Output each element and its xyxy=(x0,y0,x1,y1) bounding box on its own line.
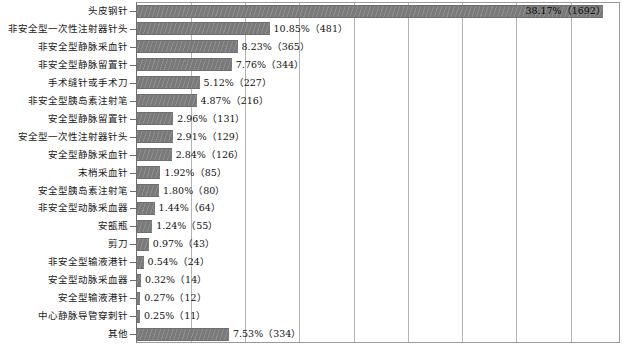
bar-row: 安全型输液港针0.27%（12） xyxy=(0,289,630,307)
data-label: 2.96%（131） xyxy=(177,110,245,128)
bar xyxy=(137,220,152,233)
bar-row: 非安全型输液港针0.54%（24） xyxy=(0,253,630,271)
bar xyxy=(137,58,232,71)
data-label: 8.23%（365） xyxy=(242,38,310,56)
bar-row: 非安全型动脉采血器1.44%（64） xyxy=(0,199,630,217)
axis-tick xyxy=(130,208,136,209)
axis-tick xyxy=(130,191,136,192)
bar xyxy=(137,328,229,341)
data-label: 7.53%（334） xyxy=(233,325,301,343)
bar xyxy=(137,256,144,269)
axis-tick xyxy=(130,244,136,245)
category-label: 非安全型一次性注射器针头 xyxy=(0,20,128,38)
axis-tick xyxy=(130,137,136,138)
bar xyxy=(137,184,159,197)
category-label: 剪刀 xyxy=(0,235,128,253)
bar-row: 剪刀0.97%（43） xyxy=(0,235,630,253)
category-label: 安瓿瓶 xyxy=(0,217,128,235)
category-label: 非安全型胰岛素注射笔 xyxy=(0,92,128,110)
data-label: 0.25%（11） xyxy=(144,307,206,325)
axis-tick xyxy=(130,47,136,48)
bar xyxy=(137,130,173,143)
bar-row: 安瓿瓶1.24%（55） xyxy=(0,217,630,235)
bar-chart: 头皮钢针38.17%（1692）非安全型一次性注射器针头10.85%（481）非… xyxy=(0,0,630,354)
axis-tick xyxy=(130,29,136,30)
data-label: 1.80%（80） xyxy=(163,182,225,200)
axis-tick xyxy=(130,334,136,335)
data-label: 2.91%（129） xyxy=(177,128,245,146)
bar xyxy=(137,274,141,287)
category-label: 其他 xyxy=(0,325,128,343)
bar xyxy=(137,22,270,35)
category-label: 安全型输液港针 xyxy=(0,289,128,307)
category-label: 安全型一次性注射器针头 xyxy=(0,128,128,146)
bar-row: 中心静脉导管穿刺针0.25%（11） xyxy=(0,307,630,325)
axis-tick xyxy=(130,11,136,12)
category-label: 末梢采血针 xyxy=(0,164,128,182)
data-label: 0.54%（24） xyxy=(148,253,210,271)
category-label: 安全型胰岛素注射笔 xyxy=(0,182,128,200)
category-label: 非安全型输液港针 xyxy=(0,253,128,271)
bar-row: 非安全型胰岛素注射笔4.87%（216） xyxy=(0,92,630,110)
bar-row: 非安全型一次性注射器针头10.85%（481） xyxy=(0,20,630,38)
data-label: 0.97%（43） xyxy=(153,235,215,253)
data-label: 7.76%（344） xyxy=(236,56,304,74)
axis-tick xyxy=(130,65,136,66)
bar-row: 其他7.53%（334） xyxy=(0,325,630,343)
data-label: 1.24%（55） xyxy=(156,217,218,235)
data-label: 1.92%（85） xyxy=(164,164,226,182)
data-label: 1.44%（64） xyxy=(159,199,221,217)
category-label: 安全型静脉采血针 xyxy=(0,146,128,164)
bar xyxy=(137,148,172,161)
category-label: 手术缝针或手术刀 xyxy=(0,74,128,92)
bar xyxy=(137,310,140,323)
bar-row: 非安全型静脉留置针7.76%（344） xyxy=(0,56,630,74)
axis-tick xyxy=(130,83,136,84)
axis-tick xyxy=(130,101,136,102)
category-label: 非安全型静脉留置针 xyxy=(0,56,128,74)
bar-row: 末梢采血针1.92%（85） xyxy=(0,164,630,182)
axis-tick xyxy=(130,316,136,317)
data-label: 38.17%（1692） xyxy=(525,2,605,20)
bar xyxy=(137,166,160,179)
bar-row: 安全型一次性注射器针头2.91%（129） xyxy=(0,128,630,146)
bar-row: 非安全型静脉采血针8.23%（365） xyxy=(0,38,630,56)
category-label: 头皮钢针 xyxy=(0,2,128,20)
bar xyxy=(137,202,155,215)
category-label: 安全型静脉留置针 xyxy=(0,110,128,128)
bar xyxy=(137,238,149,251)
bar xyxy=(137,76,200,89)
data-label: 10.85%（481） xyxy=(274,20,348,38)
category-label: 非安全型动脉采血器 xyxy=(0,199,128,217)
category-label: 安全型动脉采血器 xyxy=(0,271,128,289)
axis-tick xyxy=(130,298,136,299)
category-label: 中心静脉导管穿刺针 xyxy=(0,307,128,325)
bar xyxy=(137,292,140,305)
data-label: 0.32%（14） xyxy=(145,271,207,289)
bar-rows: 头皮钢针38.17%（1692）非安全型一次性注射器针头10.85%（481）非… xyxy=(0,2,630,343)
data-label: 5.12%（227） xyxy=(204,74,272,92)
axis-tick xyxy=(130,280,136,281)
axis-tick xyxy=(130,173,136,174)
axis-tick xyxy=(130,262,136,263)
bar-row: 头皮钢针38.17%（1692） xyxy=(0,2,630,20)
axis-tick xyxy=(130,119,136,120)
axis-tick xyxy=(130,226,136,227)
bar xyxy=(137,112,173,125)
bar xyxy=(137,40,238,53)
category-label: 非安全型静脉采血针 xyxy=(0,38,128,56)
bar-row: 安全型胰岛素注射笔1.80%（80） xyxy=(0,182,630,200)
bar-row: 安全型静脉采血针2.84%（126） xyxy=(0,146,630,164)
bar-row: 安全型静脉留置针2.96%（131） xyxy=(0,110,630,128)
data-label: 0.27%（12） xyxy=(144,289,206,307)
bar-row: 安全型动脉采血器0.32%（14） xyxy=(0,271,630,289)
bar xyxy=(137,94,197,107)
data-label: 2.84%（126） xyxy=(176,146,244,164)
axis-tick xyxy=(130,155,136,156)
data-label: 4.87%（216） xyxy=(201,92,269,110)
bar-row: 手术缝针或手术刀5.12%（227） xyxy=(0,74,630,92)
